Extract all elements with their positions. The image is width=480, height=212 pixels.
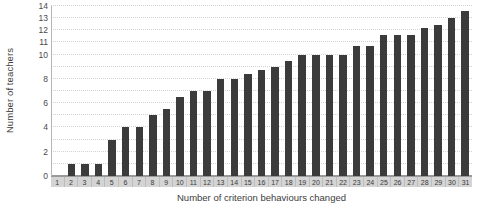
x-axis-tick-1: 1: [51, 177, 65, 187]
x-axis-tick-24: 24: [364, 177, 378, 187]
x-axis-tick-9: 9: [160, 177, 174, 187]
y-axis-title-label: Number of teachers: [5, 47, 16, 132]
x-axis-tick-11: 11: [187, 177, 201, 187]
bar-slot: [404, 6, 418, 176]
bar[interactable]: [108, 140, 115, 176]
bar-slot: [282, 6, 296, 176]
bar[interactable]: [339, 55, 346, 176]
x-axis-tick-13: 13: [214, 177, 228, 187]
bar-slot: [458, 6, 472, 176]
bar[interactable]: [81, 164, 88, 176]
bar[interactable]: [122, 127, 129, 176]
y-axis-tick-4: 4: [43, 123, 48, 132]
bar[interactable]: [461, 11, 468, 176]
y-axis-tick-12: 12: [39, 26, 48, 35]
x-axis-tick-23: 23: [350, 177, 364, 187]
y-axis-tick-10: 10: [39, 50, 48, 59]
x-axis-tick-12: 12: [201, 177, 215, 187]
x-axis-title: Number of criterion behaviours changed: [51, 192, 472, 203]
x-axis-tick-10: 10: [173, 177, 187, 187]
bar-slot: [241, 6, 255, 176]
bar-slot: [295, 6, 309, 176]
bar[interactable]: [217, 79, 224, 176]
x-axis-tick-31: 31: [459, 177, 472, 187]
bars-layer: [51, 6, 472, 176]
bar[interactable]: [366, 46, 373, 176]
bar[interactable]: [421, 28, 428, 176]
x-axis-tick-17: 17: [269, 177, 283, 187]
bar[interactable]: [312, 55, 319, 176]
x-axis-tick-7: 7: [133, 177, 147, 187]
bar[interactable]: [353, 46, 360, 176]
x-axis-tick-14: 14: [228, 177, 242, 187]
y-axis-tick-2: 2: [43, 147, 48, 156]
bar[interactable]: [434, 25, 441, 176]
bar-slot: [65, 6, 79, 176]
bar[interactable]: [448, 18, 455, 176]
y-axis-tick-6: 6: [43, 99, 48, 108]
x-axis-tick-30: 30: [446, 177, 460, 187]
bar-slot: [390, 6, 404, 176]
bar[interactable]: [380, 35, 387, 176]
x-axis-tick-22: 22: [337, 177, 351, 187]
bar-slot: [445, 6, 459, 176]
bar-slot: [187, 6, 201, 176]
bar[interactable]: [407, 35, 414, 176]
bar-slot: [309, 6, 323, 176]
y-axis-tick-0: 0: [43, 172, 48, 181]
x-axis-tick-27: 27: [405, 177, 419, 187]
x-axis-tick-19: 19: [296, 177, 310, 187]
bar[interactable]: [95, 164, 102, 176]
x-axis-tick-29: 29: [432, 177, 446, 187]
x-axis-tick-16: 16: [255, 177, 269, 187]
y-axis-tick-14: 14: [39, 2, 48, 11]
x-axis-tick-3: 3: [78, 177, 92, 187]
bar[interactable]: [68, 164, 75, 176]
x-axis-tick-8: 8: [146, 177, 160, 187]
x-axis-tick-2: 2: [65, 177, 79, 187]
bar-slot: [160, 6, 174, 176]
x-axis-tick-20: 20: [310, 177, 324, 187]
bar-slot: [431, 6, 445, 176]
y-axis-tick-13: 13: [39, 14, 48, 23]
x-axis-tick-25: 25: [378, 177, 392, 187]
bar[interactable]: [326, 55, 333, 176]
bar[interactable]: [163, 109, 170, 176]
y-axis-title: Number of teachers: [2, 0, 18, 180]
x-axis-tick-18: 18: [282, 177, 296, 187]
bar[interactable]: [190, 91, 197, 176]
bar[interactable]: [136, 127, 143, 176]
bar-slot: [105, 6, 119, 176]
x-axis-tick-5: 5: [105, 177, 119, 187]
bar[interactable]: [394, 35, 401, 176]
bar-slot: [51, 6, 65, 176]
bar[interactable]: [285, 61, 292, 176]
bar[interactable]: [231, 79, 238, 176]
bar[interactable]: [271, 67, 278, 176]
bar[interactable]: [203, 91, 210, 176]
bar[interactable]: [298, 55, 305, 176]
bar[interactable]: [244, 74, 251, 176]
bar-slot: [228, 6, 242, 176]
bar-slot: [78, 6, 92, 176]
bar-slot: [146, 6, 160, 176]
x-axis-tick-21: 21: [323, 177, 337, 187]
bar-slot: [268, 6, 282, 176]
bar-slot: [214, 6, 228, 176]
bar[interactable]: [149, 115, 156, 176]
bar-slot: [119, 6, 133, 176]
y-axis-tick-11: 11: [39, 38, 48, 47]
x-axis-tick-6: 6: [119, 177, 133, 187]
bar-slot: [173, 6, 187, 176]
bar-slot: [336, 6, 350, 176]
bar-slot: [132, 6, 146, 176]
x-axis-tick-4: 4: [92, 177, 106, 187]
bar-slot: [363, 6, 377, 176]
x-axis-tick-26: 26: [391, 177, 405, 187]
bar-slot: [418, 6, 432, 176]
bar-slot: [377, 6, 391, 176]
bar-slot: [350, 6, 364, 176]
bar-slot: [200, 6, 214, 176]
bar[interactable]: [258, 70, 265, 176]
bar[interactable]: [176, 97, 183, 176]
